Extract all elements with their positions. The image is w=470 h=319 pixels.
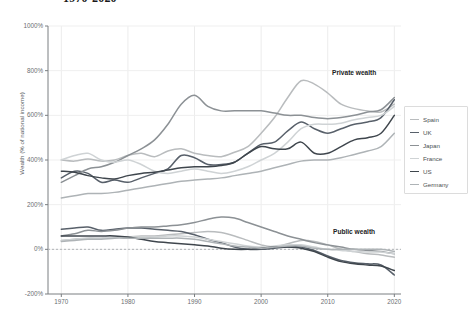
x-tick-label: 2020 [374, 298, 414, 305]
series-line-us [61, 115, 394, 179]
x-tick-label: 1990 [175, 298, 215, 305]
y-tick-label: 600% [0, 111, 43, 118]
legend-swatch-icon [410, 184, 419, 185]
y-tick-label: 200% [0, 201, 43, 208]
page-title: 1970-2020 [63, 0, 117, 6]
chart-title-clip: 1970-2020 [0, 0, 470, 9]
legend-label: UK [423, 129, 432, 136]
legend-swatch-icon [410, 158, 419, 159]
x-tick-label: 2010 [308, 298, 348, 305]
legend-item-japan[interactable]: Japan [410, 139, 467, 152]
legend-label: Japan [423, 142, 440, 149]
series-line-uk [61, 100, 394, 183]
legend-swatch-icon [410, 119, 419, 120]
legend-label: France [423, 155, 442, 162]
legend-item-uk[interactable]: UK [410, 126, 467, 139]
x-tick-label: 1980 [108, 298, 148, 305]
annotation-private-wealth: Private wealth [332, 69, 376, 76]
legend-item-us[interactable]: US [410, 165, 467, 178]
series-line-japan [61, 95, 394, 182]
legend-label: Germany [423, 181, 448, 188]
series-line-germany [61, 133, 394, 198]
y-axis-label: Wealth (% of national income) [18, 69, 25, 199]
y-tick-label: 1000% [0, 22, 43, 29]
legend-swatch-icon [410, 171, 419, 172]
legend[interactable]: SpainUKJapanFranceUSGermany [404, 106, 468, 194]
series-line-spain [61, 80, 394, 161]
legend-item-spain[interactable]: Spain [410, 113, 467, 126]
legend-item-germany[interactable]: Germany [410, 178, 467, 191]
plot-area [0, 0, 470, 319]
legend-label: US [423, 168, 432, 175]
wealth-chart: 1970-2020 Wealth (% of national income) … [0, 0, 470, 319]
legend-swatch-icon [410, 132, 419, 133]
annotation-public-wealth: Public wealth [333, 228, 375, 235]
x-tick-label: 1970 [41, 298, 81, 305]
y-tick-label: -200% [0, 290, 43, 297]
y-tick-label: 800% [0, 67, 43, 74]
legend-swatch-icon [410, 145, 419, 146]
series-line-us [61, 236, 394, 271]
legend-item-france[interactable]: France [410, 152, 467, 165]
y-tick-label: 400% [0, 156, 43, 163]
x-tick-label: 2000 [241, 298, 281, 305]
y-tick-label: 0% [0, 245, 43, 252]
legend-label: Spain [423, 116, 439, 123]
